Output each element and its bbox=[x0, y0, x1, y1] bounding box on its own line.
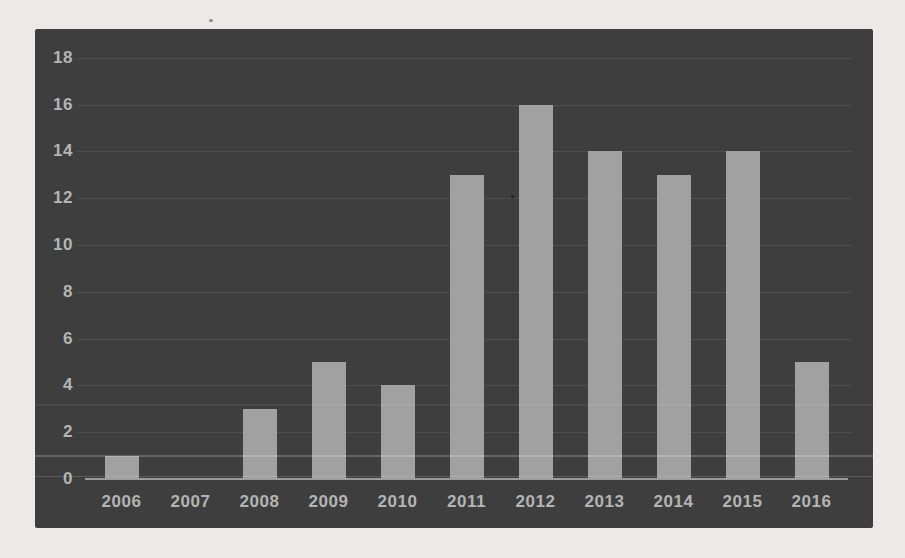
x-tick-label: 2009 bbox=[299, 491, 359, 513]
bar-2011 bbox=[450, 175, 484, 479]
plot-area: 0246810121416182006200720082009201020112… bbox=[35, 29, 873, 528]
bar-2009 bbox=[312, 362, 346, 479]
bar-2013 bbox=[588, 151, 622, 479]
x-tick-label: 2008 bbox=[230, 491, 290, 513]
x-tick-label: 2007 bbox=[161, 491, 221, 513]
x-tick-label: 2013 bbox=[575, 491, 635, 513]
bar-2016 bbox=[795, 362, 829, 479]
bar-2012 bbox=[519, 105, 553, 479]
gridline-y-18 bbox=[77, 58, 851, 59]
gridline-y-16 bbox=[77, 105, 851, 106]
bar-2006 bbox=[105, 456, 139, 479]
y-tick-label: 0 bbox=[35, 469, 73, 489]
y-tick-label: 8 bbox=[35, 282, 73, 302]
scan-speck bbox=[209, 19, 213, 22]
y-tick-label: 12 bbox=[35, 188, 73, 208]
bar-2008 bbox=[243, 409, 277, 479]
y-tick-label: 2 bbox=[35, 422, 73, 442]
x-tick-label: 2011 bbox=[437, 491, 497, 513]
y-tick-label: 18 bbox=[35, 48, 73, 68]
x-tick-label: 2016 bbox=[782, 491, 842, 513]
x-tick-label: 2015 bbox=[713, 491, 773, 513]
x-tick-label: 2014 bbox=[644, 491, 704, 513]
x-tick-label: 2006 bbox=[92, 491, 152, 513]
y-tick-label: 16 bbox=[35, 95, 73, 115]
x-tick-label: 2012 bbox=[506, 491, 566, 513]
x-tick-label: 2010 bbox=[368, 491, 428, 513]
y-tick-label: 4 bbox=[35, 375, 73, 395]
bar-2014 bbox=[657, 175, 691, 479]
page: 0246810121416182006200720082009201020112… bbox=[0, 0, 905, 558]
bar-2015 bbox=[726, 151, 760, 479]
y-tick-label: 14 bbox=[35, 141, 73, 161]
y-tick-label: 10 bbox=[35, 235, 73, 255]
y-tick-label: 6 bbox=[35, 329, 73, 349]
bar-chart: 0246810121416182006200720082009201020112… bbox=[35, 29, 873, 528]
bar-2010 bbox=[381, 385, 415, 479]
